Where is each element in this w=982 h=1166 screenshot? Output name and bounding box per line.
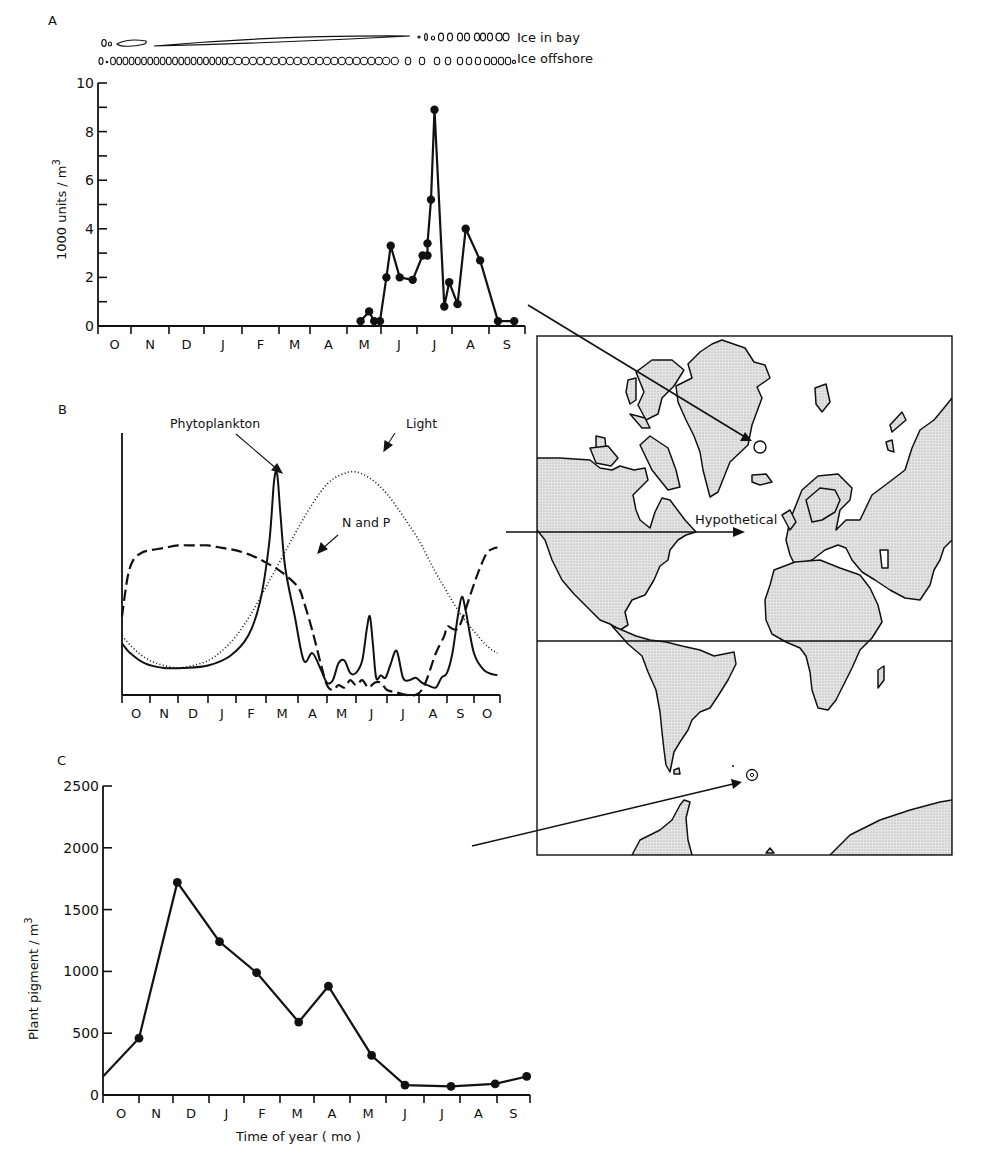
figure-canvas: A Ice in bay Ice offshore ONDJFMAMJJAS02… <box>0 0 982 1166</box>
y-tick-label: 0 <box>85 318 94 334</box>
data-point <box>423 251 431 259</box>
data-point <box>294 1018 303 1027</box>
x-tick-label: J <box>396 337 401 352</box>
x-tick-label: N <box>151 1106 161 1121</box>
y-tick-label: 2500 <box>63 778 99 794</box>
x-tick-label: O <box>116 1106 126 1121</box>
panel-b-label: B <box>58 402 67 417</box>
world-map: Hypothetical <box>537 336 952 855</box>
x-tick-label: M <box>358 337 369 352</box>
ice-in-bay-band <box>102 33 509 46</box>
ice-offshore-band <box>99 57 516 65</box>
panel-b-axes: ONDJFMAMJJASO <box>122 433 500 721</box>
panel-b: B ONDJFMAMJJASO Phytoplankton Light N an… <box>58 402 500 721</box>
panel-a-y-axis-label: 1000 units / m3 <box>51 159 69 260</box>
x-tick-label: J <box>439 1106 444 1121</box>
annotation-arrows <box>236 433 395 553</box>
data-point <box>135 1034 144 1043</box>
series-line <box>103 882 527 1086</box>
panel-a: A Ice in bay Ice offshore ONDJFMAMJJAS02… <box>48 13 593 352</box>
data-point <box>494 317 502 325</box>
data-point <box>430 106 438 114</box>
data-point <box>173 878 182 887</box>
data-point <box>447 1082 456 1091</box>
x-tick-label: M <box>362 1106 373 1121</box>
series-light <box>122 472 497 668</box>
x-tick-label: M <box>336 706 347 721</box>
site-marker-greenland <box>754 441 766 453</box>
x-tick-label: J <box>224 1106 229 1121</box>
x-tick-label: A <box>429 706 438 721</box>
y-tick-label: 0 <box>90 1087 99 1103</box>
data-point <box>408 276 416 284</box>
x-tick-label: J <box>402 1106 407 1121</box>
data-point <box>324 982 333 991</box>
panel-c-x-axis-label: Time of year ( mo ) <box>235 1129 361 1144</box>
y-tick-label: 1000 <box>63 963 99 979</box>
x-tick-label: M <box>276 706 287 721</box>
data-point <box>445 278 453 286</box>
panel-c-y-axis-label: Plant pigment / m3 <box>23 917 41 1040</box>
data-point <box>401 1081 410 1090</box>
x-tick-label: N <box>159 706 169 721</box>
y-tick-label: 1500 <box>63 902 99 918</box>
data-point <box>396 273 404 281</box>
data-point <box>252 968 261 977</box>
y-tick-label: 4 <box>85 221 94 237</box>
x-tick-label: M <box>289 337 300 352</box>
series-phytoplankton <box>122 471 497 687</box>
data-point <box>453 300 461 308</box>
x-tick-label: A <box>328 1106 337 1121</box>
panel-a-label: A <box>48 13 57 28</box>
data-point <box>382 273 390 281</box>
data-point <box>376 317 384 325</box>
legend-n-and-p: N and P <box>342 515 391 530</box>
x-tick-label: D <box>188 706 198 721</box>
x-tick-label: D <box>186 1106 196 1121</box>
panel-a-series <box>356 106 518 326</box>
panel-c-label: C <box>57 753 66 768</box>
y-tick-label: 10 <box>76 75 94 91</box>
x-tick-label: D <box>181 337 191 352</box>
x-tick-label: A <box>474 1106 483 1121</box>
x-tick-label: J <box>432 337 437 352</box>
falklands <box>674 768 680 774</box>
data-point <box>365 307 373 315</box>
data-point <box>461 225 469 233</box>
y-tick-label: 6 <box>85 172 94 188</box>
panel-c: C ONDJFMAMJJAS05001000150020002500 Plant… <box>23 753 531 1144</box>
legend-phytoplankton: Phytoplankton <box>170 416 260 431</box>
x-tick-label: A <box>466 337 475 352</box>
x-tick-label: O <box>482 706 492 721</box>
data-point <box>423 239 431 247</box>
hypothetical-label: Hypothetical <box>695 512 777 527</box>
legend-light: Light <box>406 416 437 431</box>
panel-b-series <box>122 471 497 695</box>
x-tick-label: A <box>324 337 333 352</box>
caspian <box>880 550 888 568</box>
x-tick-label: A <box>308 706 317 721</box>
data-point <box>476 256 484 264</box>
x-tick-label: F <box>258 1106 265 1121</box>
y-tick-label: 500 <box>72 1025 99 1041</box>
data-point <box>427 195 435 203</box>
x-tick-label: J <box>220 337 225 352</box>
x-tick-label: J <box>400 706 405 721</box>
panel-a-axes: ONDJFMAMJJAS0246810 <box>76 75 525 352</box>
panel-c-axes: ONDJFMAMJJAS05001000150020002500 <box>63 778 530 1121</box>
data-point <box>522 1072 531 1081</box>
data-point <box>510 317 518 325</box>
ice-in-bay-label: Ice in bay <box>517 30 580 45</box>
x-tick-label: S <box>509 1106 517 1121</box>
y-tick-label: 2000 <box>63 840 99 856</box>
ice-offshore-label: Ice offshore <box>517 51 593 66</box>
x-tick-label: J <box>219 706 224 721</box>
data-point <box>367 1051 376 1060</box>
x-tick-label: N <box>145 337 155 352</box>
series-line <box>361 110 515 321</box>
data-point <box>491 1079 500 1088</box>
data-point <box>440 302 448 310</box>
x-tick-label: O <box>109 337 119 352</box>
data-point <box>356 317 364 325</box>
data-point <box>215 937 224 946</box>
